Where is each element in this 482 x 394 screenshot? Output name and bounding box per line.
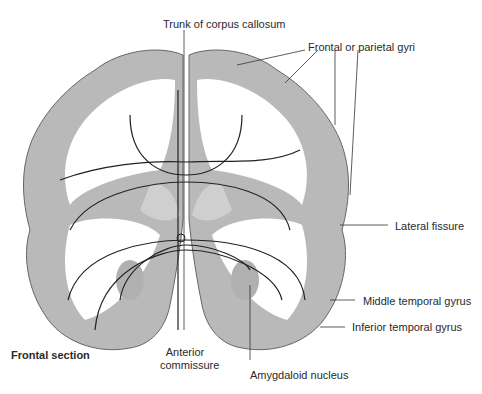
- label-frontal-section: Frontal section: [11, 349, 90, 362]
- label-amygdaloid-nucleus: Amygdaloid nucleus: [250, 369, 348, 382]
- label-anterior-line2: commissure: [160, 359, 210, 372]
- label-inferior-temporal-gyrus: Inferior temporal gyrus: [352, 321, 462, 334]
- label-anterior-commissure: Anterior commissure: [160, 346, 210, 372]
- label-lateral-fissure: Lateral fissure: [395, 220, 464, 233]
- label-frontal-or-parietal-gyri: Frontal or parietal gyri: [308, 41, 415, 54]
- label-middle-temporal-gyrus: Middle temporal gyrus: [363, 295, 471, 308]
- label-trunk-of-corpus-callosum: Trunk of corpus callosum: [163, 18, 285, 31]
- label-anterior-line1: Anterior: [160, 346, 210, 359]
- brain-section-illustration: [0, 0, 482, 394]
